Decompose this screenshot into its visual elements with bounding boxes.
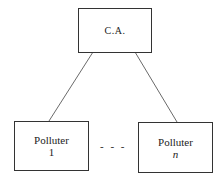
diagram: C.A. Polluter 1 Polluter n - - -	[0, 0, 222, 180]
edge-ca-polluter-1	[49, 52, 93, 121]
ellipsis: - - -	[100, 140, 127, 152]
node-polluter-1-label: Polluter	[34, 134, 69, 146]
node-polluter-1-sub: 1	[49, 146, 55, 158]
node-polluter-1: Polluter 1	[14, 121, 89, 171]
node-polluter-n-label: Polluter	[158, 136, 193, 148]
node-polluter-n: Polluter n	[138, 122, 213, 173]
node-ca: C.A.	[78, 8, 152, 53]
node-ca-label: C.A.	[105, 25, 126, 37]
edge-ca-polluter-n	[135, 52, 177, 122]
node-polluter-n-sub: n	[173, 148, 179, 160]
